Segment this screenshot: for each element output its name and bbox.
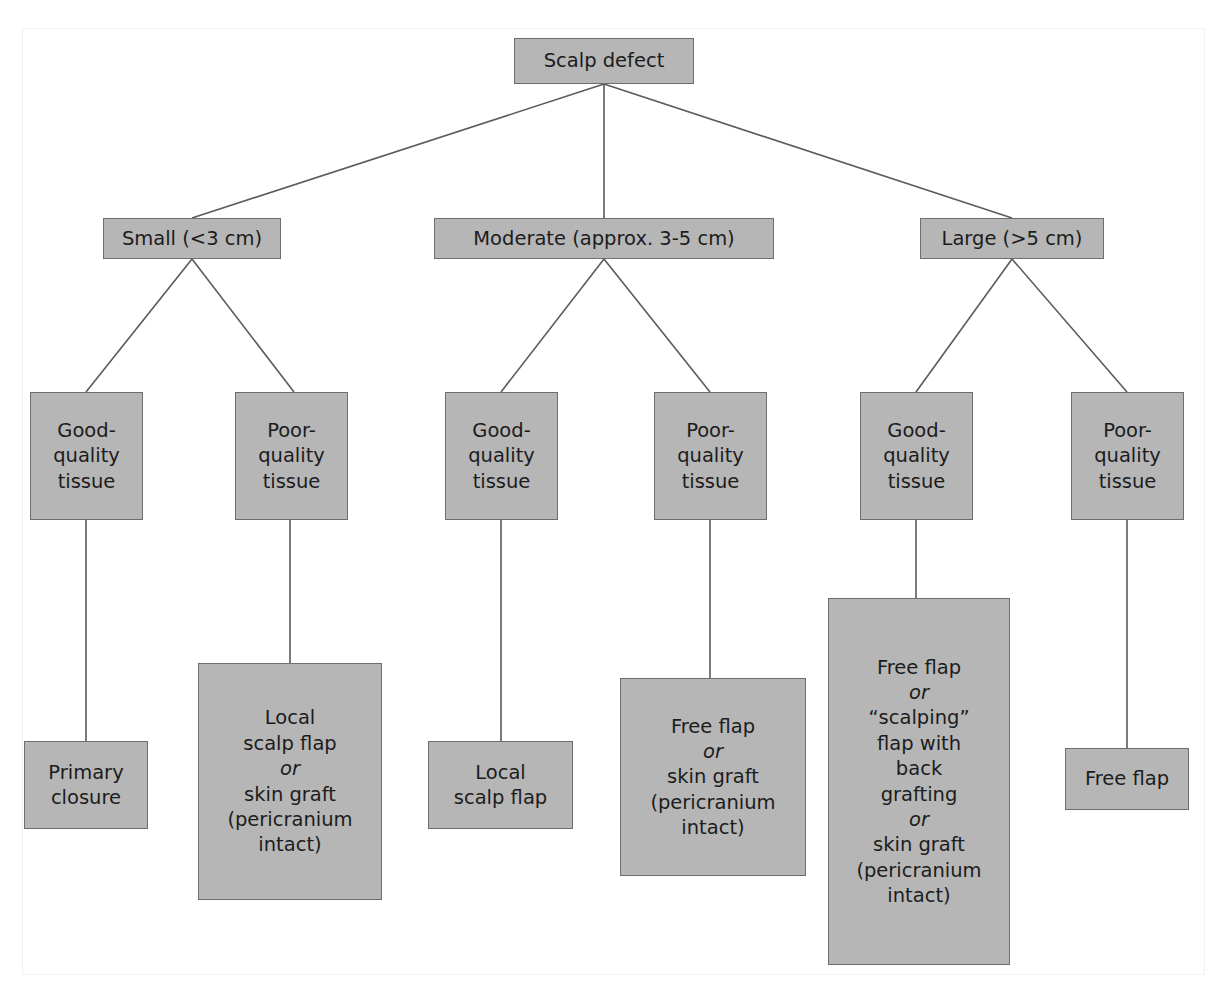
node-large-good-quality-tissue[interactable]: Good- quality tissue: [860, 392, 973, 520]
node-free-flap[interactable]: Free flap: [1065, 748, 1189, 810]
node-primary-closure[interactable]: Primaryclosure: [24, 741, 148, 829]
node-moderate-good-quality-tissue[interactable]: Good- quality tissue: [445, 392, 558, 520]
node-free-flap-or-scalping-flap[interactable]: Free flapor“scalping”flap withbackgrafti…: [828, 598, 1010, 965]
node-moderate-poor-quality-tissue[interactable]: Poor- quality tissue: [654, 392, 767, 520]
node-small[interactable]: Small (<3 cm): [103, 218, 281, 259]
node-local-scalp-flap[interactable]: Localscalp flap: [428, 741, 573, 829]
node-free-flap-or-skin-graft[interactable]: Free flaporskin graft(pericraniumintact): [620, 678, 806, 876]
figure-canvas: Scalp defect Small (<3 cm) Moderate (app…: [0, 0, 1221, 994]
node-moderate[interactable]: Moderate (approx. 3-5 cm): [434, 218, 774, 259]
leaf-text: Localscalp flap: [454, 760, 547, 811]
node-large-poor-quality-tissue[interactable]: Poor- quality tissue: [1071, 392, 1184, 520]
node-local-scalp-flap-or-skin-graft[interactable]: Localscalp flaporskin graft(pericraniumi…: [198, 663, 382, 900]
leaf-text: Localscalp flaporskin graft(pericraniumi…: [227, 705, 352, 857]
node-small-poor-quality-tissue[interactable]: Poor- quality tissue: [235, 392, 348, 520]
node-scalp-defect[interactable]: Scalp defect: [514, 38, 694, 84]
leaf-text: Primaryclosure: [48, 760, 123, 811]
leaf-text: Free flaporskin graft(pericraniumintact): [650, 714, 775, 841]
leaf-text: Free flapor“scalping”flap withbackgrafti…: [856, 655, 981, 908]
node-small-good-quality-tissue[interactable]: Good- quality tissue: [30, 392, 143, 520]
leaf-text: Free flap: [1085, 766, 1169, 791]
node-large[interactable]: Large (>5 cm): [920, 218, 1104, 259]
